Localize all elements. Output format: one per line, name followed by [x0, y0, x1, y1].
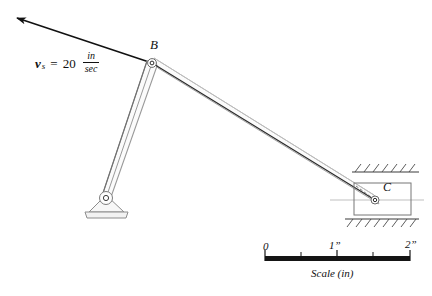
- velocity-equals: =: [50, 57, 57, 70]
- label-point-B: B: [150, 38, 158, 51]
- scale-label-0: 0: [263, 240, 269, 252]
- guide-top-hatching: [355, 164, 415, 172]
- figure-canvas: B C vs = 20 in sec 0 1” 2” Scale (in): [0, 0, 432, 296]
- pivot-pin-O: [103, 195, 108, 200]
- velocity-unit-denominator: sec: [83, 63, 100, 74]
- scale-caption: Scale (in): [311, 268, 353, 279]
- rod-center-line: [152, 63, 375, 200]
- ground-pivot-support: [85, 192, 128, 219]
- velocity-label: vs = 20 in sec: [35, 52, 99, 75]
- label-point-C: C: [383, 181, 391, 193]
- velocity-unit-numerator: in: [85, 51, 97, 62]
- scale-bar: [265, 250, 410, 261]
- scale-label-2in: 2”: [405, 238, 417, 250]
- pin-joint-B: [148, 59, 157, 68]
- slider-guide: [330, 164, 424, 227]
- scale-label-1in: 1”: [329, 239, 341, 251]
- rod-upper-edge: [154, 58, 374, 195]
- crank-edge-shade: [101, 61, 147, 199]
- velocity-symbol: v: [35, 57, 41, 70]
- mechanism-diagram: [0, 0, 432, 296]
- guide-bottom-hatching: [347, 219, 416, 227]
- crank-center-line: [106, 63, 152, 198]
- joint-B-pin: [150, 61, 154, 65]
- slider-pin-C: [373, 198, 376, 201]
- velocity-unit-fraction: in sec: [83, 51, 100, 74]
- connecting-rod-BC: [152, 58, 379, 204]
- velocity-subscript: s: [42, 62, 46, 71]
- crank-OB: [101, 61, 157, 199]
- velocity-magnitude: 20: [63, 57, 76, 70]
- support-base: [85, 212, 128, 218]
